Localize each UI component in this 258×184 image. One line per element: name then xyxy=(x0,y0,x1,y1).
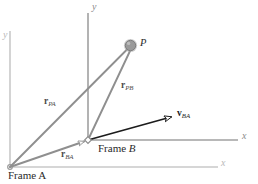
frame-a-x-axis-label: x xyxy=(221,158,225,168)
vector-v-ba-line xyxy=(88,117,171,140)
vector-v-ba-subscript: BA xyxy=(182,112,190,119)
vector-r-pb-subscript: PB xyxy=(125,84,133,91)
vector-r-pa-label: rPA xyxy=(44,97,56,107)
vector-r-pb-line xyxy=(88,51,130,140)
diagram-canvas xyxy=(0,0,258,184)
point-p-label: P xyxy=(140,38,146,49)
vector-v-ba-label: vBA xyxy=(177,109,190,119)
frame-b-label-prefix: Frame xyxy=(98,142,129,154)
vector-r-pa-subscript: PA xyxy=(48,100,55,107)
frame-b-label: Frame B xyxy=(98,143,136,154)
point-p-marker xyxy=(124,39,137,52)
vector-r-ba-subscript: BA xyxy=(65,153,73,160)
vector-r-ba-label: rBA xyxy=(61,150,74,160)
frame-b-y-axis-label: y xyxy=(92,2,96,12)
frame-b-origin-marker xyxy=(85,137,92,144)
frame-a-y-axis-label: y xyxy=(3,30,7,40)
vector-diagram-figure: y x y x P rPA rPB rBA vBA Frame B Frame … xyxy=(0,0,258,184)
frame-b-axes xyxy=(88,13,238,140)
frame-b-x-axis-label: x xyxy=(242,131,246,141)
frame-b-label-letter: B xyxy=(129,142,136,154)
vector-r-pb-label: rPB xyxy=(121,81,134,91)
frame-a-label: Frame A xyxy=(8,170,46,181)
